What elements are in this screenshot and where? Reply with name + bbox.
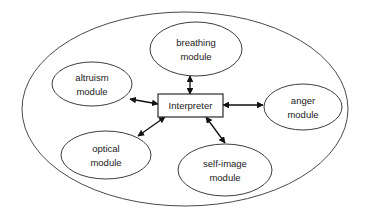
- interpreter-label: Interpreter: [169, 100, 213, 111]
- module-breathing-label-line2: module: [180, 51, 211, 62]
- module-self-image-label-line1: self-image: [203, 158, 247, 169]
- module-optical-label-line1: optical: [92, 143, 119, 154]
- module-anger-label-line2: module: [287, 109, 318, 120]
- module-self-image-label-line2: module: [209, 172, 240, 183]
- interpreter-node[interactable]: Interpreter: [158, 94, 223, 117]
- module-anger[interactable]: anger module: [264, 84, 342, 130]
- module-breathing-label-line1: breathing: [176, 37, 216, 48]
- mind-modules-diagram: breathing module altruism module anger m…: [0, 0, 370, 217]
- module-altruism-label-line2: module: [76, 86, 107, 97]
- diagram-canvas: breathing module altruism module anger m…: [0, 0, 370, 217]
- module-optical-label-line2: module: [90, 157, 121, 168]
- module-breathing[interactable]: breathing module: [150, 22, 242, 76]
- module-self-image-shape: [178, 144, 272, 196]
- module-breathing-shape: [150, 22, 242, 76]
- module-optical[interactable]: optical module: [61, 131, 151, 179]
- module-anger-shape: [264, 84, 342, 130]
- module-optical-shape: [61, 131, 151, 179]
- module-self-image[interactable]: self-image module: [178, 144, 272, 196]
- module-altruism[interactable]: altruism module: [52, 62, 132, 106]
- module-altruism-shape: [52, 62, 132, 106]
- module-altruism-label-line1: altruism: [75, 72, 108, 83]
- module-anger-label-line1: anger: [291, 95, 315, 106]
